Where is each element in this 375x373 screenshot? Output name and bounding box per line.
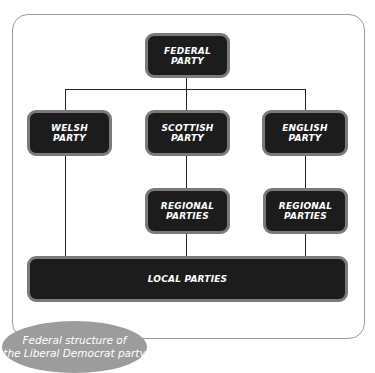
- node-label-line2: PARTY: [53, 133, 86, 143]
- node-label-line2: PARTY: [289, 133, 322, 143]
- caption-line2: the Liberal Democrat party: [3, 347, 145, 360]
- node-regional-parties-english: REGIONAL PARTIES: [263, 188, 348, 234]
- connector-regional-english-to-local: [305, 233, 306, 257]
- node-label-line1: WELSH: [51, 123, 88, 133]
- connector-to-welsh: [65, 89, 66, 111]
- node-label-line1: ENGLISH: [282, 123, 328, 133]
- node-label-line2: PARTIES: [284, 211, 327, 221]
- connector-welsh-to-local: [65, 155, 66, 257]
- connector-regional-scottish-to-local: [186, 233, 187, 257]
- node-label-line1: SCOTTISH: [161, 123, 213, 133]
- node-federal-party: FEDERAL PARTY: [145, 33, 230, 78]
- connector-scottish-to-regional: [186, 155, 187, 189]
- connector-to-english: [305, 89, 306, 111]
- node-label: LOCAL PARTIES: [148, 274, 227, 284]
- node-label-line1: REGIONAL: [279, 201, 332, 211]
- node-welsh-party: WELSH PARTY: [27, 110, 112, 156]
- node-label-line2: PARTY: [171, 133, 204, 143]
- node-scottish-party: SCOTTISH PARTY: [145, 110, 230, 156]
- node-regional-parties-scottish: REGIONAL PARTIES: [145, 188, 230, 234]
- node-english-party: ENGLISH PARTY: [262, 110, 348, 156]
- caption-line1: Federal structure of: [23, 334, 127, 347]
- connector-to-scottish: [186, 89, 187, 111]
- node-label-line2: PARTIES: [166, 211, 209, 221]
- connector-english-to-regional: [305, 155, 306, 189]
- node-local-parties: LOCAL PARTIES: [27, 256, 348, 302]
- node-label-line2: PARTY: [171, 56, 204, 66]
- caption-ellipse: Federal structure of the Liberal Democra…: [2, 321, 147, 373]
- node-label-line1: REGIONAL: [161, 201, 214, 211]
- node-label-line1: FEDERAL: [164, 46, 211, 56]
